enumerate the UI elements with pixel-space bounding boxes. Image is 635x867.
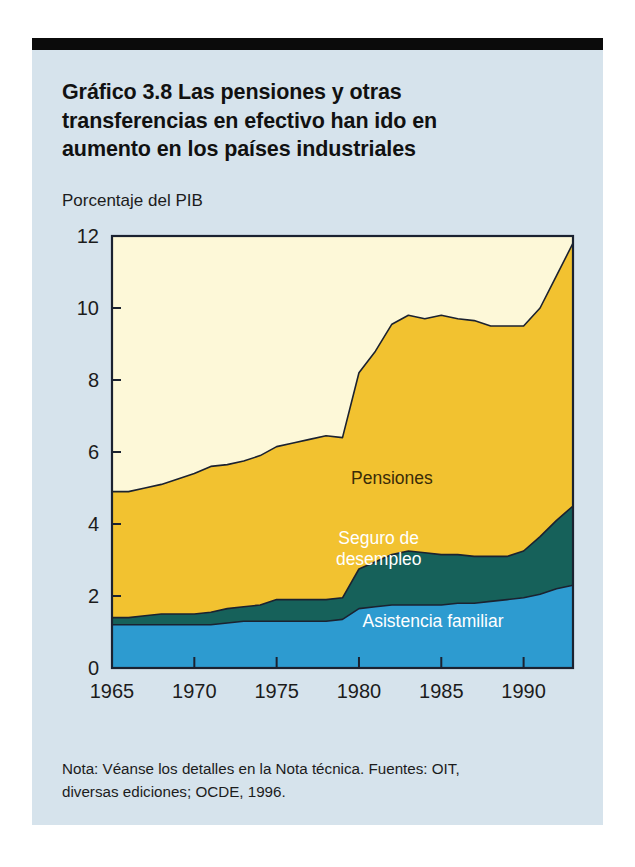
- x-tick-label: 1965: [90, 680, 135, 702]
- footnote-line-1: Nota: Véanse los detalles en la Nota téc…: [62, 757, 562, 780]
- figure-footnote: Nota: Véanse los detalles en la Nota téc…: [62, 757, 562, 803]
- x-tick-label: 1975: [254, 680, 299, 702]
- x-tick-labels-group: 196519701975198019851990: [90, 680, 546, 702]
- y-tick-labels-group: 024681012: [77, 225, 99, 679]
- top-rule-divider: [32, 38, 603, 50]
- y-tick-label: 2: [88, 585, 99, 607]
- x-tick-label: 1990: [501, 680, 546, 702]
- x-tick-label: 1985: [419, 680, 464, 702]
- series-label-seguro-de-desempleo: Seguro de: [338, 528, 419, 548]
- plot-area: 024681012 196519701975198019851990 Pensi…: [32, 50, 603, 825]
- y-tick-label: 6: [88, 441, 99, 463]
- y-tick-label: 0: [88, 657, 99, 679]
- series-label-pensiones: Pensiones: [351, 468, 433, 488]
- series-label-asistencia-familiar: Asistencia familiar: [363, 611, 504, 631]
- y-tick-label: 8: [88, 369, 99, 391]
- stacked-area-chart: 024681012 196519701975198019851990 Pensi…: [32, 50, 603, 825]
- figure-container: Gráfico 3.8 Las pensiones y otras transf…: [0, 0, 635, 867]
- y-tick-label: 12: [77, 225, 99, 247]
- y-tick-label: 10: [77, 297, 99, 319]
- y-tick-label: 4: [88, 513, 99, 535]
- x-tick-label: 1980: [337, 680, 382, 702]
- series-label-seguro-de-desempleo: desempleo: [336, 549, 422, 569]
- footnote-line-2: diversas ediciones; OCDE, 1996.: [62, 780, 562, 803]
- x-tick-label: 1970: [172, 680, 217, 702]
